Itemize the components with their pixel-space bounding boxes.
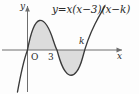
equation-label: y=x(x−3)(x−k) xyxy=(52,4,130,15)
y-axis-arrowhead xyxy=(25,6,30,12)
root-label-k: k xyxy=(79,37,84,46)
math-figure-cubic-graph: y=x(x−3)(x−k) y x O 3 k xyxy=(0,0,139,94)
shaded-region-0-to-3 xyxy=(28,20,58,50)
root-label-3: 3 xyxy=(48,53,54,62)
origin-label: O xyxy=(31,53,38,62)
x-axis-label: x xyxy=(117,52,122,61)
y-axis-label: y xyxy=(20,2,25,11)
